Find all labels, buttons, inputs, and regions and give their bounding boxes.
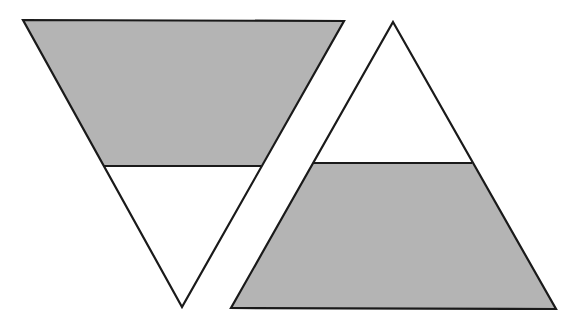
diagram-canvas bbox=[0, 0, 587, 326]
